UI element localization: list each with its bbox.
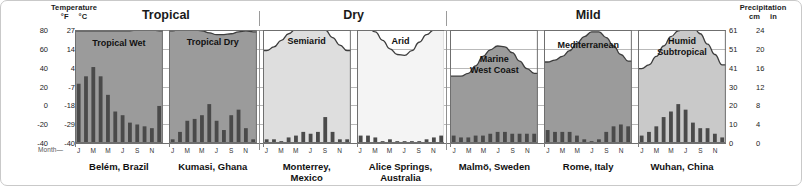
precipitation-bar bbox=[77, 84, 81, 143]
precipitation-bar bbox=[113, 112, 117, 143]
axis-tick-secondary: 4 bbox=[756, 120, 775, 129]
month-tick-label: S bbox=[604, 147, 608, 154]
precipitation-bar bbox=[575, 136, 579, 143]
precipitation-bar bbox=[489, 134, 493, 143]
precipitation-bar bbox=[308, 134, 312, 143]
month-tick-label: M bbox=[481, 147, 486, 154]
month-tick-label: M bbox=[91, 147, 96, 154]
precipitation-bar bbox=[323, 117, 327, 143]
temperature-area bbox=[357, 30, 445, 143]
month-tick-label: M bbox=[575, 147, 580, 154]
climate-panel: HumidSubtropical bbox=[638, 30, 726, 143]
precipitation-bar bbox=[143, 126, 147, 143]
axis-tick-primary: 51 bbox=[729, 44, 748, 53]
precipitation-bar bbox=[229, 115, 233, 143]
axis-tick-primary: 40 bbox=[29, 63, 48, 72]
month-tick-label: M bbox=[466, 147, 471, 154]
precipitation-bar bbox=[366, 136, 370, 143]
axis-tick: 4116 bbox=[729, 63, 775, 72]
axis-tick: 6014 bbox=[29, 44, 75, 53]
axis-tick-secondary: 8 bbox=[756, 101, 775, 110]
axis-tick: 404 bbox=[29, 63, 75, 72]
temperature-area bbox=[263, 30, 351, 143]
precipitation-axis-scale: 612451204116301220810400 bbox=[729, 30, 775, 143]
climate-panel: Tropical Dry bbox=[169, 30, 257, 143]
axis-tick: 0-18 bbox=[29, 101, 75, 110]
month-tick-label: N bbox=[713, 147, 718, 154]
axis-tick: 208 bbox=[729, 101, 775, 110]
month-axis: JMMJSN bbox=[450, 147, 538, 156]
month-tick-label: N bbox=[150, 147, 155, 154]
axis-tick-primary: 0 bbox=[29, 101, 48, 110]
precipitation-bar bbox=[568, 132, 572, 143]
group-divider bbox=[259, 11, 260, 26]
axis-tick-secondary: -18 bbox=[56, 101, 75, 110]
climate-type-label-line: Subtropical bbox=[638, 47, 726, 58]
group-separator bbox=[446, 30, 447, 150]
axis-tick: 104 bbox=[729, 120, 775, 129]
month-tick-label: J bbox=[452, 147, 455, 154]
axis-tick: -20-29 bbox=[29, 120, 75, 129]
precipitation-bar bbox=[178, 132, 182, 143]
month-tick-label: S bbox=[323, 147, 327, 154]
climate-type-label: Tropical Dry bbox=[169, 37, 257, 48]
axis-tick: 3012 bbox=[729, 82, 775, 91]
month-tick-label: S bbox=[698, 147, 702, 154]
climate-plot bbox=[450, 30, 538, 143]
month-tick-label: J bbox=[359, 147, 362, 154]
axis-tick-primary: 80 bbox=[29, 26, 48, 35]
precipitation-bar bbox=[533, 134, 537, 143]
month-tick-label: N bbox=[525, 147, 530, 154]
month-tick-label: M bbox=[560, 147, 565, 154]
month-tick-label: J bbox=[640, 147, 643, 154]
precipitation-bar bbox=[215, 121, 219, 143]
month-axis-label: Month— bbox=[38, 146, 62, 153]
axis-tick-primary: 20 bbox=[29, 82, 48, 91]
month-axis-tick bbox=[357, 143, 358, 147]
climate-panel: Tropical Wet bbox=[75, 30, 163, 143]
month-tick-label: J bbox=[77, 147, 80, 154]
precipitation-bar bbox=[157, 106, 161, 143]
month-tick-label: J bbox=[684, 147, 687, 154]
axis-tick: 6124 bbox=[729, 26, 775, 35]
climate-type-label: HumidSubtropical bbox=[638, 36, 726, 57]
axis-tick-secondary: -7 bbox=[56, 82, 75, 91]
precipitation-bar bbox=[301, 132, 305, 143]
precipitation-bar bbox=[150, 128, 154, 143]
axis-tick: 5120 bbox=[729, 44, 775, 53]
month-axis: JMMJSN bbox=[75, 147, 163, 156]
temperature-unit-fahrenheit: °F bbox=[61, 13, 69, 22]
month-tick-label: J bbox=[265, 147, 268, 154]
precipitation-bar bbox=[496, 132, 500, 143]
month-axis-tick bbox=[263, 143, 264, 147]
axis-tick-primary: 30 bbox=[729, 82, 748, 91]
month-tick-label: M bbox=[105, 147, 110, 154]
month-axis-tick bbox=[450, 143, 451, 147]
precipitation-bar bbox=[619, 124, 623, 143]
temperature-axis-scale: 8027601440420-70-18-20-29-40-40 bbox=[29, 30, 75, 143]
precipitation-bar bbox=[474, 136, 478, 143]
axis-tick-secondary: 4 bbox=[56, 63, 75, 72]
month-tick-label: S bbox=[510, 147, 514, 154]
precipitation-bar bbox=[193, 119, 197, 143]
axis-tick: 20-7 bbox=[29, 82, 75, 91]
month-tick-label: J bbox=[309, 147, 312, 154]
axis-tick-secondary: 12 bbox=[756, 82, 775, 91]
precipitation-bar bbox=[677, 104, 681, 143]
climate-type-label-line: Humid bbox=[638, 36, 726, 47]
month-tick-label: M bbox=[372, 147, 377, 154]
precipitation-bar bbox=[662, 117, 666, 143]
precipitation-bar bbox=[612, 126, 616, 143]
climate-type-label: Semiarid bbox=[263, 36, 351, 47]
precipitation-bar bbox=[185, 121, 189, 143]
month-axis-tick bbox=[75, 143, 76, 147]
precipitation-bar bbox=[330, 132, 334, 143]
precipitation-bar bbox=[244, 128, 248, 143]
city-label-line: Wuhan, China bbox=[624, 161, 740, 172]
group-heading: Tropical bbox=[75, 8, 257, 22]
gridline bbox=[75, 143, 726, 144]
climate-type-label-line: West Coast bbox=[450, 65, 538, 76]
month-tick-label: M bbox=[387, 147, 392, 154]
month-tick-label: S bbox=[417, 147, 421, 154]
precipitation-bar bbox=[691, 123, 695, 143]
